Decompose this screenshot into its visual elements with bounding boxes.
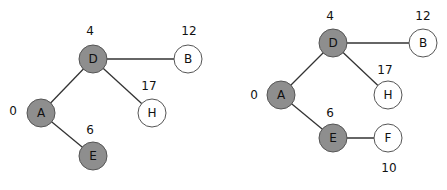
node-label: E xyxy=(329,131,337,145)
node-label: A xyxy=(277,88,286,102)
node-label: D xyxy=(328,36,337,50)
node-label: E xyxy=(89,149,97,163)
distance-label: 17 xyxy=(377,63,392,77)
distance-label: 4 xyxy=(86,24,94,38)
distance-label: 12 xyxy=(415,9,430,23)
distance-label: 0 xyxy=(250,88,258,102)
graph-1: D4B12A0H17E6 xyxy=(9,24,202,170)
node-label: B xyxy=(419,36,427,50)
graph-diagram: D4B12A0H17E6D4B12A0H17E6F10 xyxy=(0,0,447,190)
graph-2: D4B12A0H17E6F10 xyxy=(250,9,437,175)
node-label: H xyxy=(147,106,156,120)
node-label: H xyxy=(383,88,392,102)
distance-label: 17 xyxy=(141,79,156,93)
distance-label: 10 xyxy=(381,161,396,175)
distance-label: 0 xyxy=(9,104,17,118)
distance-label: 4 xyxy=(326,9,334,23)
distance-label: 6 xyxy=(326,106,334,120)
node-label: A xyxy=(37,106,46,120)
distance-label: 12 xyxy=(181,24,196,38)
distance-label: 6 xyxy=(86,123,94,137)
node-label: B xyxy=(184,52,192,66)
node-label: D xyxy=(88,52,97,66)
node-label: F xyxy=(385,131,392,145)
